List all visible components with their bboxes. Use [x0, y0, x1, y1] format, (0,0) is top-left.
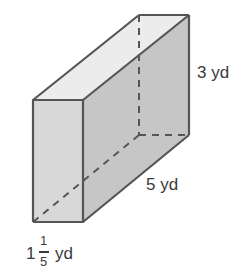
width-denominator: 5 [40, 254, 47, 269]
width-whole: 1 [26, 244, 35, 264]
width-numerator: 1 [40, 233, 47, 248]
height-label: 3 yd [197, 64, 229, 81]
length-label: 5 yd [146, 176, 178, 193]
front-face [33, 100, 83, 222]
width-label: 1 1 5 yd [26, 233, 96, 275]
fraction-bar [39, 251, 49, 253]
width-unit: yd [55, 244, 73, 264]
